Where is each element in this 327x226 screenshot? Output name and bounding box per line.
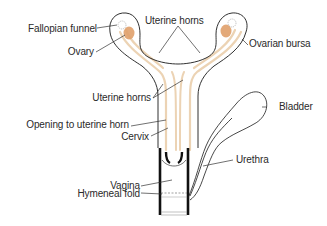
- leader-lines: [96, 25, 267, 194]
- label-ovary: Ovary: [60, 46, 94, 57]
- label-bladder: Bladder: [279, 101, 313, 112]
- label-uterine-horns-mid: Uterine horns: [82, 92, 151, 103]
- ovary-left: [124, 27, 135, 40]
- label-opening-to-uterine-horn: Opening to uterine horn: [10, 119, 129, 130]
- label-uterine-horns-top: Uterine horns: [145, 15, 204, 26]
- reproductive-tract-diagram: Fallopian funnel Ovary Uterine horns Ova…: [0, 0, 327, 226]
- bladder-urethra: [188, 92, 267, 200]
- label-urethra: Urethra: [236, 154, 269, 165]
- label-hymeneal-fold: Hymeneal fold: [68, 188, 140, 199]
- label-fallopian-funnel: Fallopian funnel: [19, 23, 97, 34]
- label-ovarian-bursa: Ovarian bursa: [249, 38, 311, 49]
- label-cervix: Cervix: [105, 131, 149, 142]
